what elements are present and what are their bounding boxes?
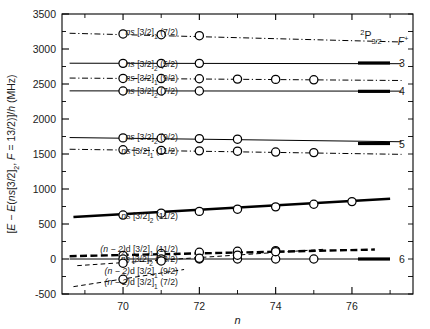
- data-point: [233, 135, 241, 143]
- ion-core-level-label: 6: [399, 253, 405, 265]
- data-point: [195, 254, 203, 262]
- data-point: [272, 148, 280, 156]
- y-tick-label: 2000: [33, 113, 57, 125]
- y-tick-label: -500: [35, 288, 56, 300]
- data-point: [195, 75, 203, 83]
- data-point: [272, 203, 280, 211]
- data-point: [310, 76, 318, 84]
- energy-level-chart: -500050010001500200025003000350070727476…: [0, 0, 430, 329]
- f-plus-header: F+: [398, 33, 409, 47]
- data-point: [348, 198, 356, 206]
- x-tick-label: 74: [270, 300, 282, 312]
- series-group: [70, 30, 402, 42]
- data-point: [195, 147, 203, 155]
- data-point: [233, 251, 241, 259]
- series-label: ns [3/2]1 (11/2): [121, 146, 178, 159]
- series-label: (n − 2)d [3/2]1 (7/2): [105, 277, 179, 290]
- data-point: [157, 257, 165, 265]
- data-point: [310, 200, 318, 208]
- data-point: [233, 205, 241, 213]
- ion-core-level-label: 3: [399, 57, 405, 69]
- ion-core-title: 2P3/2: [360, 27, 381, 45]
- series-label: ns [3/2]2 (9/2): [126, 132, 179, 145]
- series-label: ns [3/2]1 (7/2): [126, 27, 179, 40]
- series-label: ns [3/2]2 (11/2): [121, 211, 178, 224]
- ion-core-level-label: 4: [399, 85, 405, 97]
- y-tick-label: 500: [38, 218, 56, 230]
- figure-container: -500050010001500200025003000350070727476…: [0, 0, 430, 329]
- y-tick-label: 1000: [33, 183, 57, 195]
- y-tick-label: 1500: [33, 148, 57, 160]
- series-label: ns [3/2]2 (7/2): [126, 86, 179, 99]
- x-tick-label: 72: [194, 300, 206, 312]
- series-label: ns [3/2]2 (5/2): [126, 59, 179, 72]
- series-group: [70, 134, 402, 143]
- series-label: ns [3/2]1 (9/2): [126, 73, 179, 86]
- y-tick-label: 0: [50, 253, 56, 265]
- y-tick-label: 2500: [33, 78, 57, 90]
- data-point: [195, 32, 203, 40]
- y-tick-label: 3000: [33, 43, 57, 55]
- data-point: [233, 147, 241, 155]
- x-tick-label: 76: [346, 300, 358, 312]
- data-point: [195, 135, 203, 143]
- data-point: [272, 248, 280, 256]
- series-group: [70, 74, 402, 84]
- x-tick-label: 70: [117, 300, 129, 312]
- data-point: [310, 149, 318, 157]
- series-group: [70, 87, 402, 95]
- series-group: [70, 146, 402, 157]
- series-group: [70, 59, 402, 67]
- y-tick-label: 3500: [33, 8, 57, 20]
- data-point: [272, 75, 280, 83]
- data-point: [195, 87, 203, 95]
- x-axis-title: n: [234, 314, 240, 326]
- data-point: [310, 255, 318, 263]
- data-point: [233, 75, 241, 83]
- data-point: [195, 207, 203, 215]
- y-axis-title: [E − E(ns[3/2]2, F = 13/2)]/h (MHz): [5, 74, 20, 233]
- data-point: [195, 59, 203, 67]
- ion-core-level-label: 5: [399, 138, 405, 150]
